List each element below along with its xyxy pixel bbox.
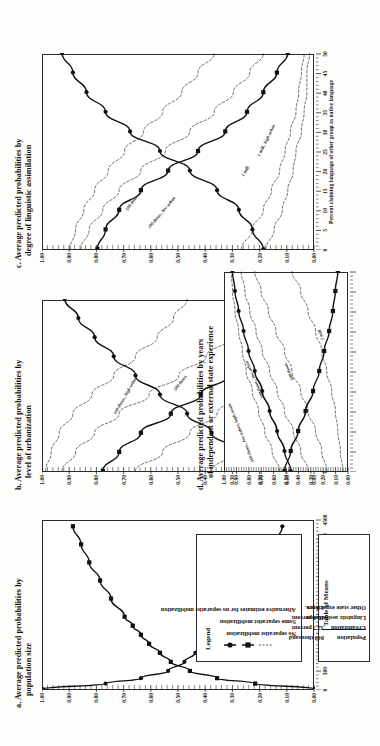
- panel-c: c. Average predicted probabilities by de…: [14, 16, 366, 284]
- series-marker: [71, 524, 75, 528]
- series-marker: [246, 349, 250, 353]
- series-marker: [169, 660, 173, 664]
- figure-page: a. Average predicted probabilities by po…: [0, 0, 380, 746]
- series-marker: [182, 660, 186, 664]
- series-marker: [317, 369, 321, 373]
- series-marker: [158, 149, 162, 153]
- panel-a-title-line1: Average predicted probabilities by: [14, 578, 23, 700]
- y-axis-tick-label: 0.60: [148, 475, 154, 485]
- panel-d-title-line2: of independent or external state experie…: [206, 326, 216, 478]
- panel-c-title: c. Average predicted probabilities by de…: [14, 58, 35, 268]
- series-marker: [280, 524, 284, 528]
- y-axis-tick-label: 0.80: [93, 693, 99, 703]
- series-marker: [84, 90, 88, 94]
- panel-d-x-axis-labels: [350, 272, 360, 472]
- series-marker: [158, 392, 162, 396]
- series-marker: [93, 335, 97, 339]
- series-line: [46, 299, 187, 471]
- series-marker: [215, 676, 219, 680]
- y-axis-tick-label: 0.90: [66, 475, 72, 485]
- series-marker: [289, 449, 293, 453]
- series-marker: [336, 271, 340, 273]
- series-marker: [139, 431, 143, 435]
- series-marker: [188, 169, 192, 173]
- series-marker: [109, 596, 113, 600]
- series-marker: [311, 389, 315, 393]
- panel-c-curves: [43, 53, 315, 249]
- series-line: [242, 53, 305, 249]
- series-line: [285, 271, 338, 471]
- series-line: [70, 53, 214, 249]
- panel-a-title: a. Average predicted probabilities by po…: [14, 512, 35, 708]
- series-marker: [123, 615, 127, 619]
- y-axis-ticks: [42, 245, 316, 253]
- series-marker: [237, 309, 241, 313]
- panel-c-plot-area: [42, 54, 314, 250]
- panel-d: d. Average predicted probabilities by ye…: [196, 266, 376, 506]
- series-marker: [304, 409, 308, 413]
- series-marker: [169, 412, 173, 416]
- series-marker: [185, 412, 189, 416]
- y-axis-tick-label: 0.20: [320, 475, 326, 485]
- series-marker: [261, 90, 265, 94]
- series-marker: [131, 624, 135, 628]
- y-axis-tick-label: 0.50: [175, 253, 181, 263]
- y-axis-tick-label: 1.00: [39, 693, 45, 703]
- series-marker: [331, 309, 335, 313]
- series-marker: [286, 53, 290, 55]
- series-marker: [322, 349, 326, 353]
- panel-b-label: b.: [14, 483, 23, 490]
- figure-sheet: a. Average predicted probabilities by po…: [0, 0, 380, 746]
- panel-d-y-axis-labels: 1.000.900.800.700.600.500.400.300.200.10…: [224, 475, 348, 506]
- series-line: [62, 53, 263, 249]
- series-marker: [128, 129, 132, 133]
- x-axis-ticks: [316, 52, 322, 250]
- panel-a-y-axis-labels: 1.000.900.800.700.600.500.400.300.200.10…: [42, 693, 314, 724]
- y-axis-tick-label: 0.80: [93, 253, 99, 263]
- series-marker: [63, 299, 67, 301]
- panel-c-x-axis-labels: 05101520253035404550: [316, 54, 328, 250]
- panel-d-title: d. Average predicted probabilities by ye…: [196, 266, 217, 490]
- legend-title: Legend: [204, 628, 212, 650]
- y-axis-tick-label: 0.40: [295, 475, 301, 485]
- series-marker: [60, 53, 64, 55]
- panel-b-title-line1: Average predicted probabilities by: [14, 360, 23, 482]
- y-axis-ticks: [224, 467, 350, 475]
- table-of-means-row-name: Population: [337, 635, 366, 642]
- table-of-means-row-value: 10.4 percent: [292, 615, 324, 622]
- series-marker: [215, 188, 219, 192]
- y-axis-tick-label: 0.10: [333, 475, 339, 485]
- series-marker: [139, 633, 143, 637]
- series-marker: [223, 129, 227, 133]
- series-marker: [196, 149, 200, 153]
- y-axis-tick-label: 0.70: [258, 475, 264, 485]
- y-axis-tick-label: 0.30: [229, 253, 235, 263]
- y-axis-tick-label: 0.30: [229, 693, 235, 703]
- series-marker: [237, 208, 241, 212]
- y-axis-tick-label: 0.00: [311, 253, 317, 263]
- series-marker: [275, 429, 279, 433]
- y-axis-tick-label: 0.70: [121, 475, 127, 485]
- table-of-means-row-value: 32.7 percent: [292, 625, 324, 632]
- panel-b-title-line2: level of urbanization: [24, 405, 34, 478]
- y-axis-tick-label: 0.70: [121, 253, 127, 263]
- series-marker: [327, 329, 331, 333]
- x-axis-ticks: [350, 270, 358, 472]
- panel-c-title-line1: Average predicted probabilities by: [14, 139, 23, 261]
- series-marker: [103, 227, 107, 231]
- series-marker: [103, 110, 107, 114]
- y-axis-tick-label: 1.00: [39, 253, 45, 263]
- legend-item-label: Alternative estimates for no separatist …: [161, 607, 296, 614]
- y-axis-tick-label: 0.90: [233, 475, 239, 485]
- series-marker: [268, 409, 272, 413]
- series-marker: [117, 450, 121, 454]
- series-marker: [98, 578, 102, 582]
- series-marker: [139, 188, 143, 192]
- y-axis-tick-label: 0.60: [271, 475, 277, 485]
- series-marker: [166, 169, 170, 173]
- y-axis-tick-label: 0.90: [66, 693, 72, 703]
- y-axis-tick-label: 0.00: [311, 693, 317, 703]
- table-of-means-row-value: 1.5 yrs.: [305, 605, 324, 612]
- series-marker: [242, 329, 246, 333]
- y-axis-tick-label: 0.30: [308, 475, 314, 485]
